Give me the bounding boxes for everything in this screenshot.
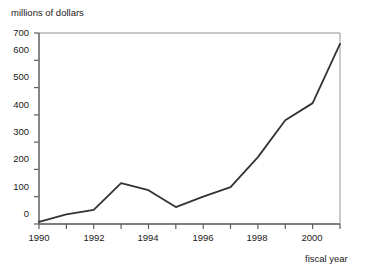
- plot-axes: [39, 33, 340, 224]
- plot-area: [0, 0, 369, 274]
- line-chart: millions of dollars fiscal year 0 100 20…: [0, 0, 369, 274]
- plot-frame: [39, 33, 340, 224]
- x-axis-ticks: [39, 224, 340, 229]
- data-series-line: [39, 44, 340, 222]
- y-axis-ticks: [34, 33, 39, 224]
